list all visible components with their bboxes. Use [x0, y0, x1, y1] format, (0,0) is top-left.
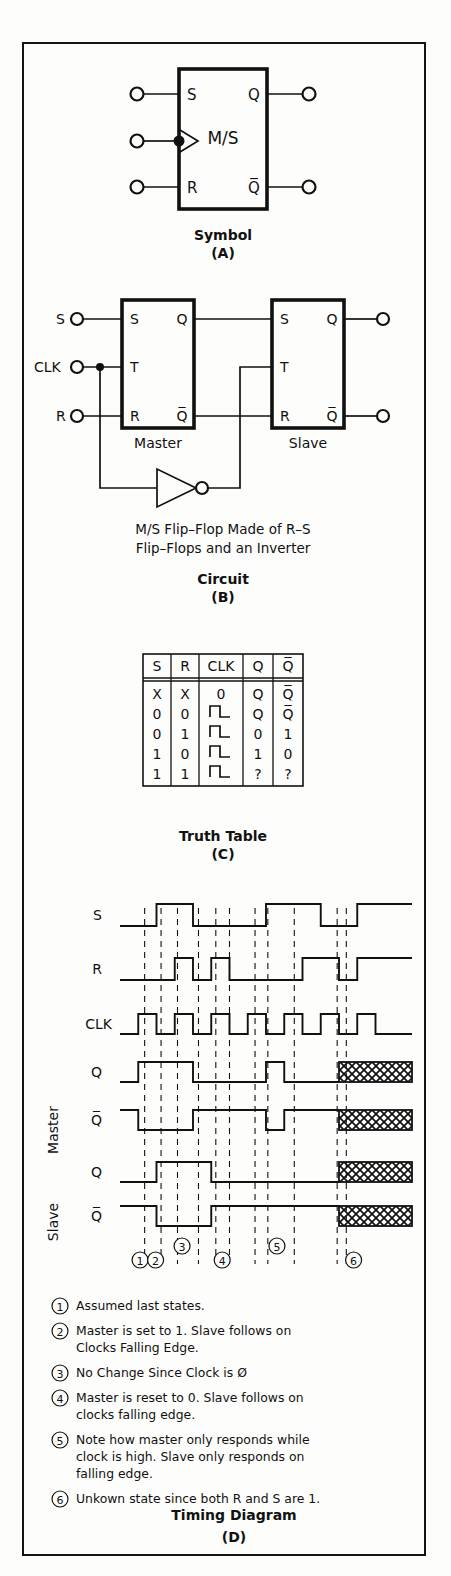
slave-pin-s: S [280, 311, 289, 327]
truth-table-cell: X [152, 686, 162, 702]
circuit-input-label-s: S [56, 311, 65, 327]
circuit-input-label-r: R [56, 408, 66, 424]
timing-panel: SRCLKQQ̅QQ̅MasterSlave123456 [24, 882, 424, 1302]
truth-table-cell: 0 [181, 746, 190, 762]
symbol-pin-s: S [187, 86, 197, 104]
inverter-triangle-icon [157, 469, 196, 507]
circuit-panel: S T R Q Q̅ Master S T R Q Q̅ Slave S CLK… [24, 276, 424, 606]
note-number: 5 [57, 1435, 64, 1448]
note-item-5: 5Note how master only responds whilecloc… [52, 1432, 310, 1481]
symbol-caption: Symbol [194, 227, 252, 243]
truth-table-header-cell: R [180, 658, 190, 674]
truth-table-header-cell: S [153, 658, 162, 674]
notes-panel: 1Assumed last states.2Master is set to 1… [24, 1292, 424, 1558]
timing-marker-2: 2 [148, 1252, 164, 1268]
timing-signal-label-1: R [92, 961, 102, 977]
master-pin-t: T [129, 359, 139, 375]
truth-table-cell: 1 [153, 766, 162, 782]
note-number: 4 [57, 1393, 64, 1406]
timing-signal-label-6: Q̅ [91, 1207, 102, 1224]
timing-marker-5: 5 [269, 1238, 285, 1254]
timing-signal-label-3: Q [91, 1064, 102, 1080]
truth-table-cell: 0 [153, 726, 162, 742]
note-text-line: Master is set to 1. Slave follows on [76, 1323, 291, 1338]
inverter-to-slave-t-wire [208, 367, 272, 488]
truth-table-cell: 0 [284, 746, 293, 762]
timing-unknown-region [339, 1110, 412, 1130]
slave-pin-qbar: Q̅ [326, 407, 337, 424]
timing-unknown-region [339, 1206, 412, 1226]
timing-caption: Timing Diagram [171, 1507, 296, 1523]
truth-table-cell: 0 [217, 686, 226, 702]
truth-table-cell: Q [252, 706, 263, 722]
slave-pin-q: Q [326, 311, 337, 327]
svg-text:2: 2 [152, 1255, 159, 1268]
timing-waveform-r [120, 958, 412, 980]
timing-signal-label-4: Q̅ [91, 1111, 102, 1128]
clk-inversion-bubble-icon [174, 136, 185, 147]
note-number: 2 [57, 1326, 64, 1339]
truth-table-cell: Q̅ [282, 685, 293, 702]
note-text-line: clocks falling edge. [76, 1407, 195, 1422]
note-text-line: Note how master only responds while [76, 1432, 310, 1447]
note-text-line: No Change Since Clock is Ø [76, 1365, 247, 1380]
slave-pin-t: T [279, 359, 289, 375]
truth-table-cell: 0 [153, 706, 162, 722]
circuit-s-terminal [71, 313, 83, 325]
s-input-terminal [131, 88, 144, 101]
svg-text:5: 5 [273, 1241, 280, 1254]
timing-waveform-s [120, 904, 412, 926]
slave-pin-r: R [280, 408, 290, 424]
timing-signal-label-5: Q [91, 1164, 102, 1180]
note-text-line: clock is high. Slave only responds on [76, 1449, 304, 1464]
circuit-description-line2: Flip–Flops and an Inverter [136, 540, 311, 556]
timing-waveform-clk [120, 1014, 412, 1034]
circuit-caption-letter: (B) [211, 589, 234, 605]
svg-text:1: 1 [137, 1255, 144, 1268]
timing-marker-6: 6 [346, 1252, 362, 1268]
note-text-line: Master is reset to 0. Slave follows on [76, 1390, 304, 1405]
timing-marker-1: 1 [132, 1252, 148, 1268]
timing-unknown-region [339, 1062, 412, 1082]
qbar-output-terminal [303, 181, 316, 194]
truth-table-cell: 1 [284, 726, 293, 742]
truth-table-cell: 1 [181, 766, 190, 782]
master-pin-r: R [130, 408, 140, 424]
truth-table-cell: X [180, 686, 190, 702]
slave-qbar-terminal [377, 410, 389, 422]
truth-table-cell: ? [254, 766, 261, 782]
circuit-r-terminal [71, 410, 83, 422]
clk-input-terminal [131, 135, 144, 148]
r-input-terminal [131, 181, 144, 194]
master-pin-q: Q [176, 311, 187, 327]
ms-block-label: M/S [207, 128, 238, 148]
q-output-terminal [303, 88, 316, 101]
inverter-bubble-icon [196, 482, 208, 494]
timing-signal-label-0: S [93, 907, 102, 923]
timing-group-label-master: Master [45, 1106, 61, 1154]
svg-text:6: 6 [350, 1255, 357, 1268]
timing-unknown-region [339, 1162, 412, 1182]
truth-table-caption-letter: (C) [211, 846, 234, 862]
truth-table-header-cell: Q̅ [282, 657, 293, 674]
timing-group-label-slave: Slave [45, 1203, 61, 1241]
truth-table-cell: 0 [254, 726, 263, 742]
symbol-caption-letter: (A) [211, 245, 235, 261]
note-number: 1 [57, 1301, 64, 1314]
truth-table-cell: Q [252, 686, 263, 702]
truth-table-cell: 1 [153, 746, 162, 762]
note-item-4: 4Master is reset to 0. Slave follows onc… [52, 1390, 304, 1422]
note-item-3: 3No Change Since Clock is Ø [52, 1365, 247, 1381]
circuit-caption: Circuit [197, 571, 249, 587]
timing-marker-3: 3 [174, 1238, 190, 1254]
master-pin-s: S [130, 311, 139, 327]
symbol-pin-q: Q [248, 86, 260, 104]
circuit-description-line1: M/S Flip–Flop Made of R–S [135, 521, 310, 537]
symbol-panel: M/S S R Q Q̅ Symbol (A) [24, 44, 424, 294]
truth-table-panel: SRCLKQQ̅XX0QQ̅00QQ̅0101101011?? Truth Ta… [24, 636, 424, 876]
note-text-line: falling edge. [76, 1466, 153, 1481]
note-item-6: 6Unkown state since both R and S are 1. [52, 1491, 320, 1507]
note-number: 3 [57, 1368, 64, 1381]
timing-signal-label-2: CLK [85, 1016, 113, 1032]
master-pin-qbar: Q̅ [176, 407, 187, 424]
